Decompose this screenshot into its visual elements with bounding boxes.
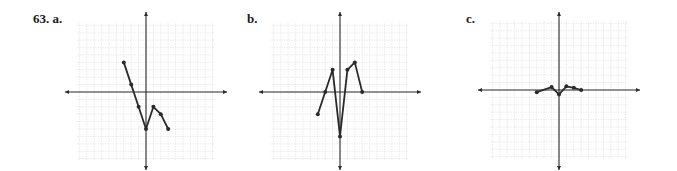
graphs-canvas bbox=[0, 0, 677, 171]
arrow-left-icon bbox=[259, 90, 263, 94]
data-point bbox=[535, 90, 539, 94]
arrow-right-icon bbox=[223, 90, 227, 94]
data-point bbox=[129, 83, 133, 87]
data-point bbox=[144, 127, 148, 131]
data-point bbox=[579, 88, 583, 92]
data-point bbox=[323, 90, 327, 94]
data-point bbox=[316, 112, 320, 116]
data-point bbox=[353, 60, 357, 64]
data-point bbox=[159, 112, 163, 116]
arrow-right-icon bbox=[417, 90, 421, 94]
graph-a bbox=[65, 12, 227, 170]
arrow-up-icon bbox=[338, 12, 342, 16]
arrow-up-icon bbox=[144, 12, 148, 16]
arrow-left-icon bbox=[65, 90, 69, 94]
data-point bbox=[338, 134, 342, 138]
data-point bbox=[137, 105, 141, 109]
arrow-right-icon bbox=[636, 88, 640, 92]
axes bbox=[478, 12, 640, 170]
data-point bbox=[331, 68, 335, 72]
arrow-down-icon bbox=[557, 166, 561, 170]
arrow-down-icon bbox=[338, 166, 342, 170]
data-point bbox=[151, 105, 155, 109]
data-point bbox=[557, 92, 561, 96]
data-point bbox=[572, 86, 576, 90]
axes bbox=[259, 12, 421, 170]
data-point bbox=[564, 84, 568, 88]
graph-b bbox=[259, 12, 421, 170]
arrow-up-icon bbox=[557, 12, 561, 16]
axes bbox=[65, 12, 227, 170]
graph-c bbox=[478, 12, 640, 170]
data-point bbox=[166, 127, 170, 131]
data-point bbox=[360, 90, 364, 94]
data-point bbox=[122, 60, 126, 64]
arrow-left-icon bbox=[478, 88, 482, 92]
data-point bbox=[550, 85, 554, 89]
data-point bbox=[345, 68, 349, 72]
arrow-down-icon bbox=[144, 166, 148, 170]
